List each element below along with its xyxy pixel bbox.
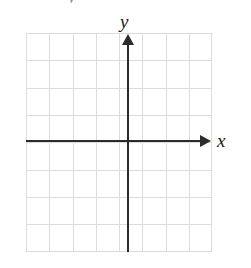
y-axis-label: y: [120, 12, 128, 31]
coordinate-plane-figure: y y x: [0, 0, 251, 268]
grid-line-horizontal: [26, 33, 212, 34]
x-axis-label: x: [217, 131, 225, 150]
x-axis-line: [26, 140, 208, 142]
y-axis-line: [127, 44, 129, 252]
grid-line-horizontal: [26, 197, 212, 198]
graph-grid: [26, 33, 212, 252]
grid-line-horizontal: [26, 60, 212, 61]
clipped-glyph-artifact: y: [68, 0, 84, 3]
grid-line-horizontal: [26, 224, 212, 225]
grid-line-horizontal: [26, 88, 212, 89]
y-axis-arrow-icon: [122, 34, 134, 45]
grid-line-horizontal: [26, 142, 212, 143]
x-axis-arrow-icon: [200, 135, 211, 147]
grid-line-horizontal: [26, 115, 212, 116]
grid-line-horizontal: [26, 251, 212, 252]
grid-line-horizontal: [26, 170, 212, 171]
